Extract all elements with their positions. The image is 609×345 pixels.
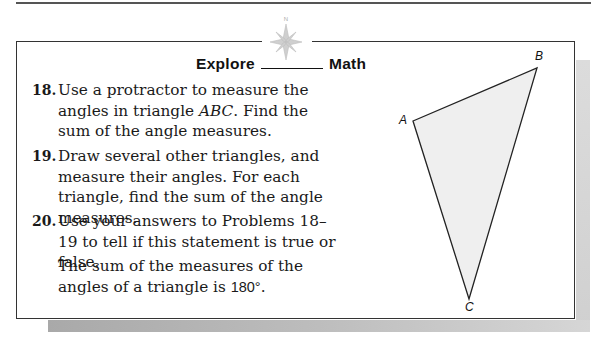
vertex-label-b: B bbox=[535, 49, 543, 63]
triangle-abc-figure bbox=[0, 0, 609, 345]
vertex-label-c: C bbox=[465, 300, 474, 314]
vertex-label-a: A bbox=[399, 113, 407, 127]
